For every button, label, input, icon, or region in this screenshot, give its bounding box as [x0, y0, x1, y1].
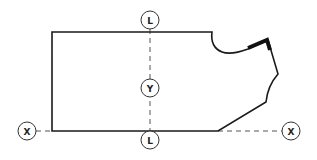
marker-center-y: Y [141, 79, 159, 97]
marker-top-l-label: L [147, 16, 153, 26]
marker-bottom-l-label: L [147, 136, 153, 146]
marker-center-y-label: Y [146, 84, 154, 94]
marker-left-x-label: X [24, 127, 31, 137]
marker-right-x-label: X [288, 127, 295, 137]
thick-seam-segment [248, 40, 270, 50]
pattern-diagram: L Y L X X [0, 0, 317, 160]
pattern-outline [52, 32, 278, 131]
marker-left-x: X [18, 122, 36, 140]
marker-bottom-l: L [141, 131, 159, 149]
marker-top-l: L [141, 11, 159, 29]
marker-right-x: X [282, 122, 300, 140]
